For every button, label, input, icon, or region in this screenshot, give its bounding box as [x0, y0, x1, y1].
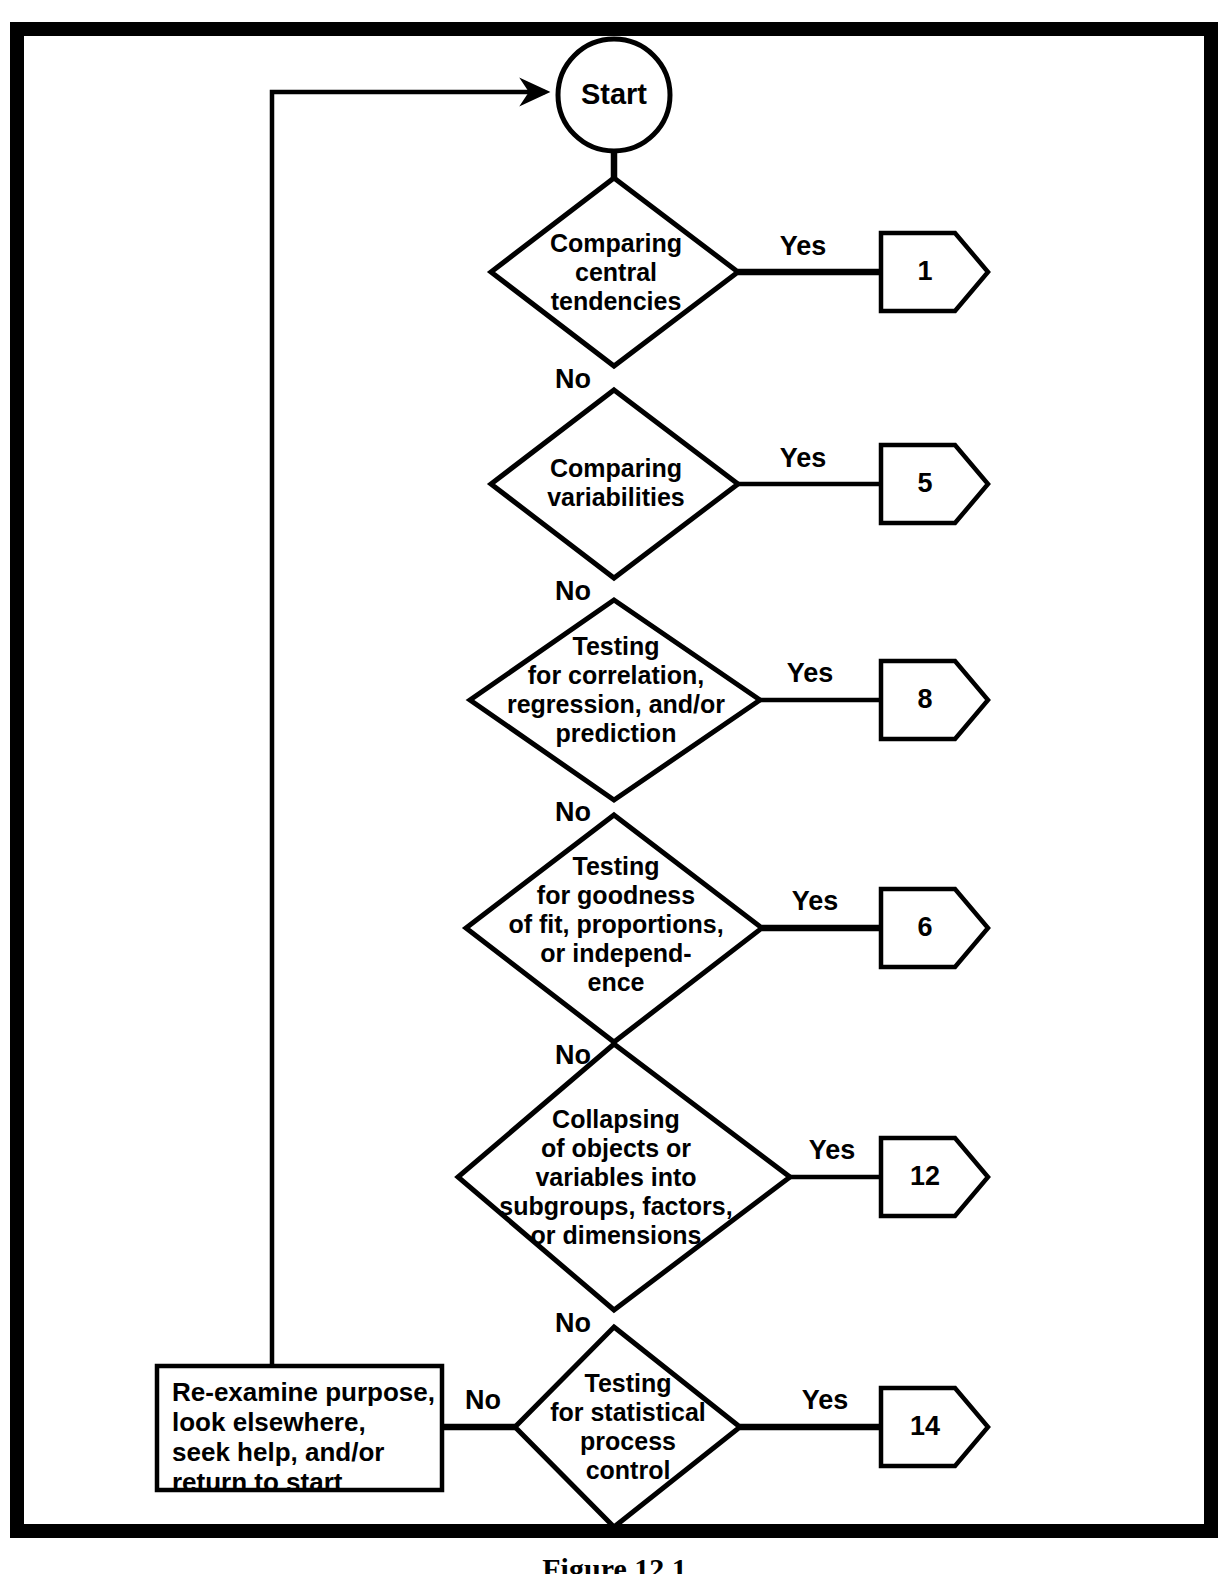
decision-collapsing-line-4: or dimensions [531, 1221, 702, 1249]
decision-goodness-line-4: ence [588, 968, 645, 996]
start-node-label: Start [581, 78, 647, 110]
decision-spc-line-3: control [586, 1456, 671, 1484]
decision-collapsing-line-2: variables into [535, 1163, 696, 1191]
decision-central-tendencies-line-1: central [575, 258, 657, 286]
decision-variabilities-line-1: variabilities [547, 483, 685, 511]
decision-spc-line-0: Testing [584, 1369, 671, 1397]
decision-collapsing-line-3: subgroups, factors, [499, 1192, 732, 1220]
figure-caption: Figure 12.1 [0, 1552, 1229, 1574]
decision-goodness-line-0: Testing [572, 852, 659, 880]
terminal-box-line-3: return to start [172, 1467, 343, 1497]
reference-marker-8-label: 8 [917, 684, 932, 714]
branch-label-d3-yes: Yes [787, 658, 834, 688]
branch-label-d5-yes: Yes [809, 1135, 856, 1165]
decision-central-tendencies-line-0: Comparing [550, 229, 682, 257]
decision-goodness-line-2: of fit, proportions, [508, 910, 723, 938]
decision-correlation-line-1: for correlation, [528, 661, 704, 689]
decision-goodness-line-1: for goodness [537, 881, 695, 909]
decision-correlation-line-2: regression, and/or [507, 690, 725, 718]
figure-container: Start Comparing central tendencies Yes 1… [0, 0, 1229, 1574]
terminal-box-line-1: look elsewhere, [172, 1407, 366, 1437]
decision-spc-line-2: process [580, 1427, 676, 1455]
reference-marker-1[interactable] [881, 233, 988, 311]
reference-marker-1-label: 1 [917, 256, 932, 286]
branch-label-d1-no: No [555, 364, 591, 394]
reference-marker-12-label: 12 [910, 1161, 940, 1191]
reference-marker-5[interactable] [881, 445, 988, 523]
reference-marker-5-label: 5 [917, 468, 932, 498]
decision-correlation-line-0: Testing [572, 632, 659, 660]
decision-collapsing-line-0: Collapsing [552, 1105, 680, 1133]
decision-central-tendencies-line-2: tendencies [551, 287, 682, 315]
branch-label-d2-no: No [555, 576, 591, 606]
decision-spc-line-1: for statistical [550, 1398, 706, 1426]
branch-label-d3-no: No [555, 797, 591, 827]
branch-label-d4-yes: Yes [792, 886, 839, 916]
branch-label-d2-yes: Yes [780, 443, 827, 473]
decision-collapsing-line-1: of objects or [541, 1134, 691, 1162]
terminal-box-line-2: seek help, and/or [172, 1437, 384, 1467]
reference-marker-6-label: 6 [917, 912, 932, 942]
decision-goodness-line-3: or independ- [540, 939, 691, 967]
flowchart-diagram: Start Comparing central tendencies Yes 1… [0, 0, 1229, 1574]
branch-label-d1-yes: Yes [780, 231, 827, 261]
branch-label-d6-yes: Yes [802, 1385, 849, 1415]
reference-marker-6[interactable] [881, 889, 988, 967]
decision-correlation-line-3: prediction [556, 719, 677, 747]
terminal-box-line-0: Re-examine purpose, [172, 1377, 435, 1407]
branch-label-d5-no: No [555, 1308, 591, 1338]
reference-marker-14-label: 14 [910, 1411, 940, 1441]
branch-label-d6-no: No [465, 1385, 501, 1415]
decision-variabilities-line-0: Comparing [550, 454, 682, 482]
reference-marker-8[interactable] [881, 661, 988, 739]
